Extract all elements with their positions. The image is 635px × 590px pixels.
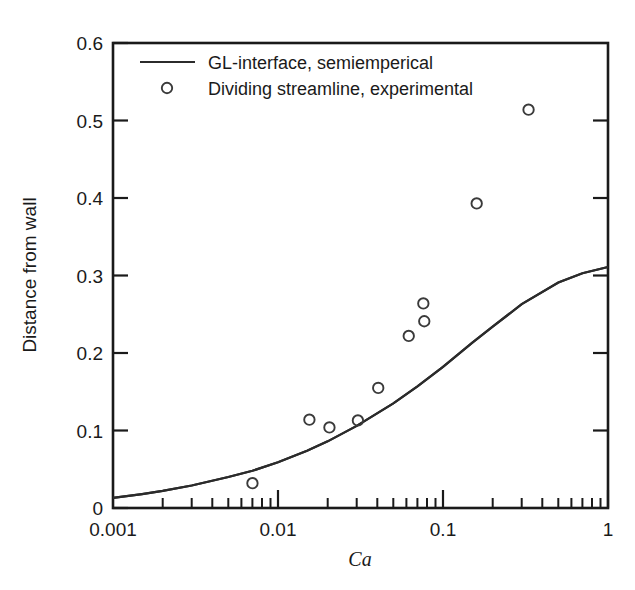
model-curve-smooth <box>113 267 608 498</box>
y-tick-label: 0.2 <box>77 343 103 364</box>
y-tick-label: 0.1 <box>77 421 103 442</box>
x-tick-label: 0.1 <box>430 519 456 540</box>
data-point <box>324 422 334 432</box>
y-tick-labels: 0.6 0.5 0.4 0.3 0.2 0.1 0 <box>77 33 104 519</box>
x-tick-label: 1 <box>603 519 614 540</box>
model-curve-gl-interface <box>113 267 608 498</box>
data-point <box>304 414 314 424</box>
y-tick-label: 0.4 <box>77 188 104 209</box>
scatter-plot: 0.6 0.5 0.4 0.3 0.2 0.1 0 <box>0 0 635 590</box>
data-point <box>471 198 481 208</box>
y-tick-label: 0.6 <box>77 33 103 54</box>
y-tick-label: 0.3 <box>77 266 103 287</box>
data-point <box>404 331 414 341</box>
data-point <box>418 298 428 308</box>
data-point <box>523 104 533 114</box>
x-tick-label: 0.01 <box>260 519 297 540</box>
y-tick-label: 0.5 <box>77 111 103 132</box>
data-points-group <box>247 104 534 488</box>
y-axis-title: Distance from wall <box>19 197 40 352</box>
x-axis-title: Ca <box>348 548 371 570</box>
x-axis-minor-ticks <box>163 498 601 508</box>
y-tick-label: 0 <box>92 498 103 519</box>
x-tick-label: 0.001 <box>89 519 137 540</box>
figure-container: 0.6 0.5 0.4 0.3 0.2 0.1 0 <box>0 0 635 590</box>
x-tick-labels: 0.001 0.01 0.1 1 <box>89 519 613 540</box>
data-point <box>419 316 429 326</box>
data-point <box>373 383 383 393</box>
legend-marker-swatch <box>162 83 172 93</box>
data-point <box>247 478 257 488</box>
legend: GL-interface, semiemperical Dividing str… <box>140 53 473 99</box>
legend-label-dividing-streamline: Dividing streamline, experimental <box>208 79 473 99</box>
legend-label-gl-interface: GL-interface, semiemperical <box>208 53 433 73</box>
